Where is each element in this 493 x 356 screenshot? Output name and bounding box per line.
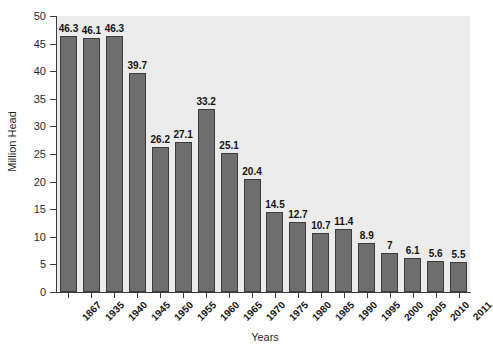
y-tick-label: 40 [6, 66, 46, 77]
y-tick-mark [50, 182, 56, 183]
bar [312, 233, 329, 292]
x-axis-title: Years [0, 331, 486, 343]
x-tick-label: 1990 [356, 300, 379, 323]
x-tick-mark [252, 293, 253, 298]
y-tick-mark [50, 237, 56, 238]
bar [289, 222, 306, 292]
x-tick-mark [413, 293, 414, 298]
y-tick-label: 5 [6, 259, 46, 270]
y-tick-mark [50, 16, 56, 17]
x-tick-label: 1960 [219, 300, 242, 323]
x-tick-mark [68, 293, 69, 298]
x-tick-label: 1970 [265, 300, 288, 323]
x-axis-line [56, 292, 471, 293]
bar [198, 109, 215, 292]
bar-value-label: 39.7 [120, 61, 154, 71]
bar [450, 262, 467, 292]
y-tick-mark [50, 99, 56, 100]
bar-value-label: 33.2 [189, 97, 223, 107]
bar-value-label: 11.4 [327, 217, 361, 227]
bar-value-label: 27.1 [166, 130, 200, 140]
x-tick-mark [160, 293, 161, 298]
bar-value-label: 46.3 [97, 24, 131, 34]
bar [175, 142, 192, 292]
x-tick-mark [321, 293, 322, 298]
x-tick-label: 1950 [173, 300, 196, 323]
bar [266, 212, 283, 292]
x-tick-label: 1867 [81, 300, 104, 323]
x-tick-label: 2011 [471, 300, 493, 322]
bar [427, 261, 444, 292]
y-tick-label: 0 [6, 287, 46, 298]
bar-value-label: 8.9 [350, 231, 384, 241]
y-axis-line [56, 16, 57, 293]
x-tick-mark [298, 293, 299, 298]
bar-value-label: 12.7 [281, 210, 315, 220]
bar [83, 38, 100, 292]
x-tick-mark [367, 293, 368, 298]
bar [129, 73, 146, 292]
y-tick-label: 45 [6, 39, 46, 50]
y-tick-mark [50, 154, 56, 155]
x-tick-mark [390, 293, 391, 298]
x-tick-mark [183, 293, 184, 298]
x-tick-mark [459, 293, 460, 298]
y-tick-mark [50, 209, 56, 210]
y-tick-label: 15 [6, 204, 46, 215]
bar [60, 36, 77, 292]
x-tick-label: 2005 [425, 300, 448, 323]
x-tick-label: 2010 [448, 300, 471, 323]
x-tick-mark [275, 293, 276, 298]
x-tick-mark [436, 293, 437, 298]
x-tick-label: 1965 [242, 300, 265, 323]
y-tick-mark [50, 264, 56, 265]
x-tick-mark [229, 293, 230, 298]
y-tick-mark [50, 126, 56, 127]
x-tick-mark [114, 293, 115, 298]
x-tick-mark [137, 293, 138, 298]
x-tick-mark [206, 293, 207, 298]
bar-value-label: 20.4 [235, 167, 269, 177]
bar [152, 147, 169, 292]
y-tick-label: 50 [6, 11, 46, 22]
x-tick-label: 1955 [196, 300, 219, 323]
y-tick-mark [50, 44, 56, 45]
x-tick-label: 1935 [104, 300, 127, 323]
y-axis-title: Million Head [7, 97, 18, 187]
x-tick-label: 2000 [402, 300, 425, 323]
x-tick-label: 1975 [287, 300, 310, 323]
x-tick-label: 1945 [150, 300, 173, 323]
bar [106, 36, 123, 292]
y-tick-mark [50, 71, 56, 72]
x-tick-label: 1980 [310, 300, 333, 323]
x-tick-label: 1940 [127, 300, 150, 323]
x-axis-title-text: Years [251, 331, 279, 343]
y-tick-mark [50, 292, 56, 293]
y-tick-label: 10 [6, 232, 46, 243]
bar-value-label: 5.5 [442, 250, 476, 260]
bar [404, 258, 421, 292]
bar-value-label: 14.5 [258, 200, 292, 210]
x-tick-label: 1995 [379, 300, 402, 323]
bar [381, 253, 398, 292]
bar-value-label: 25.1 [212, 141, 246, 151]
x-tick-mark [91, 293, 92, 298]
x-tick-label: 1985 [333, 300, 356, 323]
bar [244, 179, 261, 292]
x-tick-mark [344, 293, 345, 298]
